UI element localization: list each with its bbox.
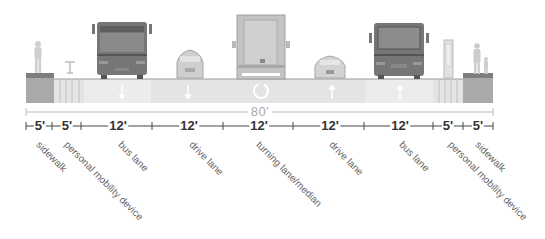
sidewalk-left: [26, 73, 54, 103]
total-width-label: 80': [248, 105, 272, 119]
dimension-bus-lane-right: 12': [390, 119, 410, 133]
dimension-turning-lane: 12': [249, 119, 269, 133]
pedestrian-with-child-icon: [474, 43, 489, 74]
street-illustration: [0, 0, 545, 239]
kiosk-icon: [444, 40, 453, 78]
dimension-sidewalk-right: 5': [472, 119, 484, 133]
pedestrian-icon: [35, 41, 42, 73]
dimension-bus-lane-left: 12': [108, 119, 128, 133]
car-right-icon: [315, 56, 345, 78]
bus-left-icon: [92, 22, 152, 79]
dimension-pmd-right: 5': [442, 119, 454, 133]
dimension-drive-lane-left: 12': [179, 119, 199, 133]
truck-icon: [232, 15, 290, 79]
bus-right-icon: [369, 23, 429, 79]
roadway: [54, 79, 463, 103]
dimension-pmd-left: 5': [61, 119, 73, 133]
dimension-drive-lane-right: 12': [320, 119, 340, 133]
car-left-icon: [177, 50, 203, 78]
dimension-sidewalk-left: 5': [34, 119, 46, 133]
sidewalk-right: [463, 73, 493, 103]
scooter-icon: [65, 62, 75, 73]
